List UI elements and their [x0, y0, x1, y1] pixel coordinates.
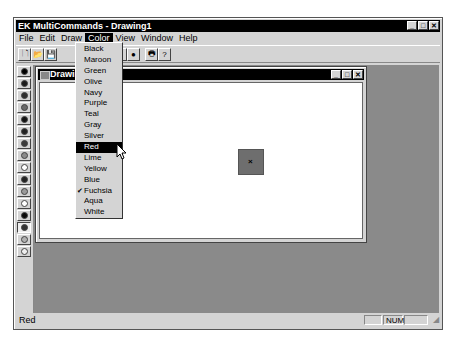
close-button[interactable]: ✕ [429, 21, 439, 30]
color-swatch-icon [21, 104, 28, 111]
resize-grip-icon[interactable]: ◢ [433, 313, 439, 327]
palette-button-olive[interactable] [17, 102, 31, 113]
palette-button-red[interactable] [17, 174, 31, 185]
status-pane-scrl [404, 315, 428, 325]
child-maximize-button[interactable]: □ [342, 70, 352, 79]
status-pane-num: NUM [383, 315, 403, 325]
menu-file[interactable]: File [16, 33, 37, 44]
minimize-button[interactable]: _ [407, 21, 417, 30]
menu-item-black[interactable]: Black [76, 44, 122, 55]
color-swatch-icon [21, 164, 28, 171]
menu-item-label: Black [84, 44, 104, 53]
menu-item-olive[interactable]: Olive [76, 77, 122, 88]
window-title: EK MultiCommands - Drawing1 [18, 21, 152, 31]
palette-button-blue[interactable] [17, 210, 31, 221]
ellipse-tool-button[interactable]: ● [127, 48, 140, 61]
child-minimize-button[interactable]: _ [331, 70, 341, 79]
color-swatch-icon [21, 68, 28, 75]
help-button[interactable]: ? [158, 48, 171, 61]
palette-button-maroon[interactable] [17, 78, 31, 89]
color-swatch-icon [21, 140, 28, 147]
menu-item-label: Olive [84, 77, 102, 86]
palette-button-purple[interactable] [17, 126, 31, 137]
printer-icon: 🖶 [148, 47, 156, 61]
menu-item-silver[interactable]: Silver [76, 131, 122, 142]
open-file-button[interactable]: 📂 [31, 48, 44, 61]
status-pane-caps [364, 315, 382, 325]
menu-item-green[interactable]: Green [76, 66, 122, 77]
color-swatch-icon [21, 212, 28, 219]
menu-item-aqua[interactable]: Aqua [76, 196, 122, 207]
menu-item-label: Fuchsia [84, 186, 112, 195]
new-file-icon: 🗋 [22, 47, 28, 61]
menu-item-fuchsia[interactable]: ✔Fuchsia [76, 186, 122, 197]
menu-item-navy[interactable]: Navy [76, 88, 122, 99]
help-question-icon: ? [162, 50, 166, 59]
palette-button-navy[interactable] [17, 114, 31, 125]
palette-button-yellow[interactable] [17, 198, 31, 209]
menu-help[interactable]: Help [176, 33, 201, 44]
color-swatch-icon [21, 128, 28, 135]
palette-button-green[interactable] [17, 90, 31, 101]
drawn-rectangle[interactable]: × [238, 149, 264, 175]
document-icon[interactable] [40, 71, 50, 80]
mouse-pointer-icon [116, 143, 128, 161]
menu-item-label: Aqua [84, 196, 103, 205]
new-file-button[interactable]: 🗋 [18, 48, 31, 61]
color-swatch-icon [21, 116, 28, 123]
title-bar[interactable]: EK MultiCommands - Drawing1 _ □ ✕ [16, 20, 440, 32]
checkmark-icon: ✔ [77, 186, 83, 197]
status-bar: Red NUM ◢ [16, 313, 440, 327]
menu-item-label: Blue [84, 175, 100, 184]
menu-item-label: Purple [84, 98, 107, 107]
open-folder-icon: 📂 [33, 50, 43, 59]
menu-item-label: Lime [84, 153, 101, 162]
menu-item-blue[interactable]: Blue [76, 175, 122, 186]
palette-button-silver[interactable] [17, 162, 31, 173]
menu-item-teal[interactable]: Teal [76, 109, 122, 120]
color-swatch-icon [21, 92, 28, 99]
menu-item-label: Red [84, 142, 99, 151]
color-swatch-icon [21, 188, 28, 195]
color-swatch-icon [21, 80, 28, 87]
menu-edit[interactable]: Edit [37, 33, 59, 44]
save-disk-icon: 💾 [46, 50, 56, 59]
status-message: Red [19, 315, 36, 325]
menu-item-label: Maroon [84, 55, 111, 64]
color-dropdown-menu: Black Maroon Green Olive Navy Purple Tea… [75, 42, 123, 219]
menu-item-label: Green [84, 66, 106, 75]
color-swatch-icon [21, 224, 28, 231]
menu-item-label: Navy [84, 88, 102, 97]
palette-button-aqua[interactable] [17, 234, 31, 245]
menu-item-label: Silver [84, 131, 104, 140]
maximize-button[interactable]: □ [418, 21, 428, 30]
menu-item-white[interactable]: White [76, 207, 122, 218]
menu-item-yellow[interactable]: Yellow [76, 164, 122, 175]
menu-item-label: Gray [84, 120, 101, 129]
menu-item-label: Teal [84, 109, 99, 118]
menu-item-label: Yellow [84, 164, 107, 173]
color-swatch-icon [21, 200, 28, 207]
palette-button-lime[interactable] [17, 186, 31, 197]
child-close-button[interactable]: ✕ [353, 70, 363, 79]
color-swatch-icon [21, 248, 28, 255]
center-marker-icon: × [248, 157, 253, 166]
color-swatch-icon [21, 236, 28, 243]
menu-item-purple[interactable]: Purple [76, 98, 122, 109]
palette-button-fuchsia[interactable] [17, 222, 31, 233]
menu-item-label: White [84, 207, 104, 216]
palette-button-teal[interactable] [17, 138, 31, 149]
color-palette [16, 65, 34, 313]
print-button[interactable]: 🖶 [145, 48, 158, 61]
color-swatch-icon [21, 152, 28, 159]
ellipse-icon: ● [131, 50, 136, 59]
save-button[interactable]: 💾 [44, 48, 57, 61]
menu-window[interactable]: Window [138, 33, 176, 44]
menu-item-gray[interactable]: Gray [76, 120, 122, 131]
menu-item-maroon[interactable]: Maroon [76, 55, 122, 66]
palette-button-gray[interactable] [17, 150, 31, 161]
color-swatch-icon [21, 176, 28, 183]
palette-button-white[interactable] [17, 246, 31, 257]
palette-button-black[interactable] [17, 66, 31, 77]
